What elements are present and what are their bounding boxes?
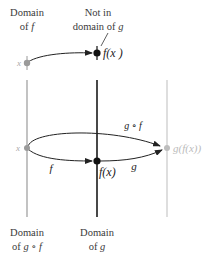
gf-arrow	[28, 133, 160, 147]
f-arrow-label: f	[49, 162, 54, 174]
top-fx-label: f(x )	[103, 46, 123, 60]
domain-f-label-line1: Domain	[10, 7, 45, 18]
domain-gf-label-line2: of g ∘ f	[12, 241, 44, 252]
composition-diagram: Domain of f Not in domain of g x f(x ) x…	[0, 0, 212, 257]
domain-f-label-line2: of f	[20, 21, 36, 32]
not-in-domain-label-line2: domain of g	[73, 21, 124, 32]
gf-arrow-label: g ∘ f	[124, 120, 143, 131]
domain-gf-label-line1: Domain	[10, 227, 45, 238]
domain-g-label-line2: of g	[89, 241, 106, 252]
f-arrow	[28, 149, 92, 161]
domain-g-label-line1: Domain	[80, 227, 115, 238]
mid-x-point	[24, 145, 30, 151]
mid-fx-point	[93, 157, 100, 164]
mid-fx-label: f(x)	[99, 165, 116, 179]
mid-gfx-label: g(f(x))	[173, 142, 201, 155]
pointer-line	[101, 33, 108, 46]
g-arrow-label: g	[131, 160, 137, 172]
top-fx-point	[93, 49, 100, 56]
not-in-domain-label-line1: Not in	[85, 7, 112, 18]
mid-x-label: x	[15, 143, 20, 153]
top-f-arrow	[28, 53, 92, 62]
mid-gfx-point	[164, 145, 170, 151]
top-x-label: x	[16, 58, 21, 68]
top-x-point	[24, 60, 30, 66]
